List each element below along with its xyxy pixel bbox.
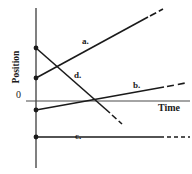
y-axis-zero-tick-label: 0: [16, 90, 21, 100]
series-d-start-dot: [34, 46, 39, 51]
series-label-a: a.: [82, 37, 89, 46]
series-line-b-dashed-extension: [167, 83, 188, 87]
series-label-b: b.: [133, 81, 140, 90]
series-label-c: c.: [75, 132, 81, 141]
series-label-d: d.: [74, 71, 81, 80]
series-c-start-dot: [34, 135, 39, 140]
y-axis-label: Position: [11, 41, 21, 93]
series-a-start-dot: [34, 76, 39, 81]
series-line-a: [36, 17, 148, 78]
x-axis-label: Time: [158, 103, 180, 113]
position-time-graph: Position 0 Time a. b. c. d.: [0, 0, 192, 174]
graph-canvas: [0, 0, 192, 174]
series-b-start-dot: [34, 108, 39, 113]
series-line-d-dashed-extension: [112, 115, 122, 124]
series-line-b: [36, 87, 164, 110]
series-line-a-dashed-extension: [150, 9, 163, 16]
